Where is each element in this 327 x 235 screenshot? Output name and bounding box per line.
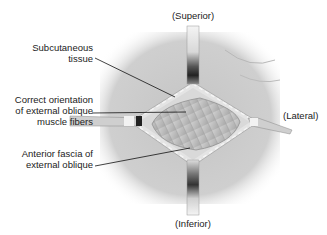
label-lateral: (Lateral) bbox=[283, 110, 318, 121]
callout-line: external oblique bbox=[0, 159, 93, 170]
callout-line: Correct orientation bbox=[0, 94, 93, 105]
callout-line: muscle fibers bbox=[0, 116, 93, 127]
callout-anterior-fascia: Anterior fascia of external oblique bbox=[0, 148, 93, 170]
callout-muscle-fibers: Correct orientation of external oblique … bbox=[0, 94, 93, 127]
retractor-inferior bbox=[187, 160, 199, 215]
retractor-superior bbox=[187, 26, 199, 84]
label-superior: (Superior) bbox=[163, 10, 223, 21]
callout-subcutaneous-tissue: Subcutaneous tissue bbox=[0, 42, 93, 64]
callout-line: of external oblique bbox=[0, 105, 93, 116]
callout-line: Anterior fascia of bbox=[0, 148, 93, 159]
callout-line: tissue bbox=[0, 53, 93, 64]
label-inferior: (Inferior) bbox=[163, 218, 223, 229]
callout-line: Subcutaneous bbox=[0, 42, 93, 53]
